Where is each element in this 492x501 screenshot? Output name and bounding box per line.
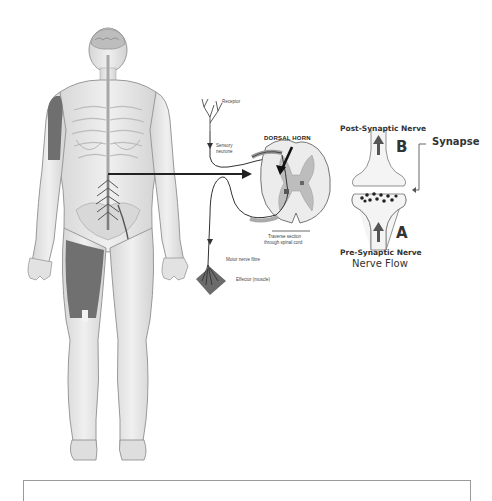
motor-nerve-fibre-label: Motor nerve fibre — [226, 257, 260, 262]
label-b: B — [396, 138, 407, 156]
pre-synaptic-label: Pre-Synaptic Nerve — [340, 248, 422, 257]
receptor-label: Receptor — [222, 99, 240, 104]
sensory-neurone-label-1: Sensory — [216, 143, 233, 148]
synapse-diagram: Post-Synaptic Nerve B Synapse A Pre-Syna… — [336, 110, 492, 275]
human-body-figure — [0, 0, 220, 470]
synapse-bracket — [414, 144, 426, 190]
down-arrow-icon-motor — [207, 239, 213, 245]
shoulder-muscle-highlight — [48, 96, 63, 160]
label-a: A — [396, 224, 408, 242]
synapse-title: Synapse — [432, 136, 479, 147]
caption-box — [23, 480, 471, 501]
effector-label: Effector (muscle) — [236, 277, 270, 282]
receptor-icon — [202, 99, 222, 131]
reflex-arc-illustration — [196, 95, 346, 315]
nerve-flow-caption: Nerve Flow — [352, 258, 408, 269]
traverse-section-label-1: Traverse section — [268, 234, 301, 239]
traverse-section-label-2: through spinal cord — [264, 240, 302, 245]
down-arrow-icon — [207, 143, 213, 149]
sensory-neurone-label-2: neurone — [216, 149, 233, 154]
dorsal-horn-label: DORSAL HORN — [264, 135, 311, 141]
reflex-arc-diagram: Receptor Sensory neurone DORSAL HORN Tra… — [196, 95, 346, 315]
post-synaptic-label: Post-Synaptic Nerve — [340, 124, 426, 133]
body-illustration — [0, 0, 220, 470]
